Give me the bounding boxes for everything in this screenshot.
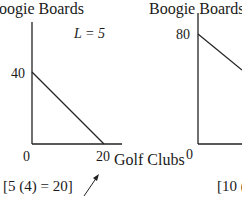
right-y-axis-label: Boogie Boards (149, 1, 242, 17)
left-y-tick: 40 (11, 67, 25, 81)
left-origin: 0 (23, 150, 30, 164)
left-y-axis-label: oogie Boards (0, 1, 84, 17)
right-origin: 0 (186, 148, 193, 162)
left-note: [5 (4) = 20] (3, 179, 73, 194)
right-y-tick: 80 (176, 28, 190, 42)
left-annotation: L = 5 (74, 27, 105, 41)
right-note: [10 ( (217, 179, 242, 194)
chart-lines (0, 0, 242, 198)
left-x-axis-label: Golf Clubs (114, 152, 185, 168)
left-x-tick: 20 (96, 150, 110, 164)
